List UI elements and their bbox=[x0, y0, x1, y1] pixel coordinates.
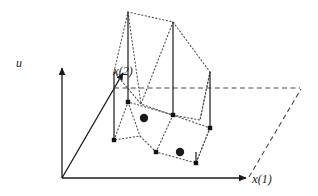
figure-canvas: u x(1) x(2) bbox=[0, 0, 318, 196]
x1-axis-label: x(1) bbox=[252, 172, 272, 185]
stem-foot-markers-group bbox=[112, 100, 212, 165]
u-axis-label: u bbox=[16, 57, 22, 69]
lower-polygon-chord-c bbox=[196, 128, 210, 163]
stem-foot-marker-3 bbox=[171, 113, 175, 117]
stem-foot-marker-5 bbox=[154, 150, 158, 154]
ground-plane-dashed bbox=[114, 88, 301, 177]
lower-polygon-chord-b bbox=[156, 115, 173, 152]
x2-axis-label: x(2) bbox=[113, 64, 133, 77]
stem-foot-marker-1 bbox=[112, 138, 116, 142]
stem-foot-marker-2 bbox=[126, 100, 130, 104]
upper-polygon-chord-a bbox=[128, 12, 141, 104]
stem-plot-svg bbox=[0, 0, 318, 196]
axes-group bbox=[62, 68, 246, 178]
stem-foot-marker-4 bbox=[208, 126, 212, 130]
large-dot-2 bbox=[176, 148, 184, 156]
stem-foot-marker-6 bbox=[194, 161, 198, 165]
stem-lines-group bbox=[114, 12, 210, 163]
ground-plane-right-edge bbox=[249, 89, 301, 177]
upper-polygon-chord-b bbox=[141, 22, 173, 104]
large-dot-1 bbox=[140, 114, 148, 122]
large-dots-group bbox=[140, 114, 184, 156]
lower-polygon-chord-a bbox=[128, 102, 140, 136]
u-axis-label-text: u bbox=[16, 56, 22, 70]
x2-axis-label-superscript: (2) bbox=[119, 64, 133, 78]
x1-axis-label-superscript: (1) bbox=[258, 172, 272, 186]
